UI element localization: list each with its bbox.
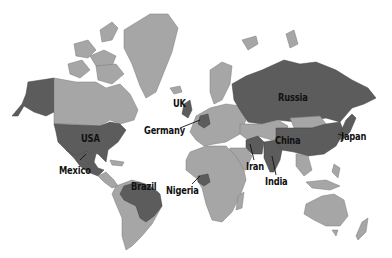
label-germany: Germany (144, 124, 185, 136)
australia (304, 194, 348, 226)
label-iran: Iran (246, 160, 264, 172)
label-brazil: Brazil (131, 180, 157, 192)
label-nigeria: Nigeria (166, 184, 199, 196)
label-japan: Japan (341, 130, 366, 142)
canada (54, 78, 138, 126)
label-china: China (275, 134, 301, 146)
scandinavia (210, 62, 232, 104)
label-mexico: Mexico (59, 164, 91, 176)
greenland (124, 14, 178, 98)
alaska (12, 78, 54, 116)
label-usa: USA (81, 132, 100, 144)
label-india: India (265, 175, 288, 187)
world-map (0, 0, 392, 258)
label-russia: Russia (278, 91, 308, 103)
canadian-arctic (68, 22, 124, 84)
europe (190, 104, 246, 146)
label-uk: UK (173, 97, 186, 109)
